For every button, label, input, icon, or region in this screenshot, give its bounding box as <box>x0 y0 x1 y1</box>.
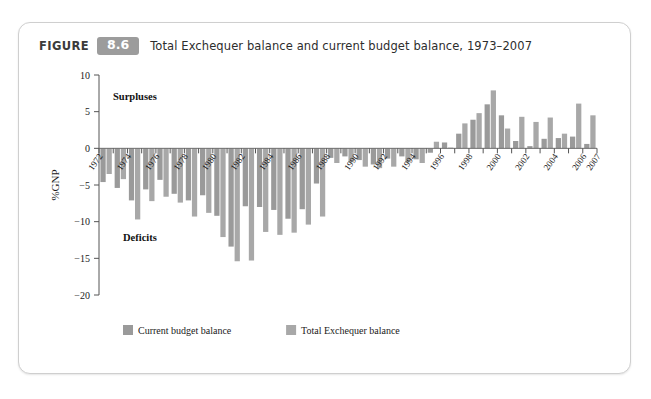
bar-series-group <box>100 90 595 261</box>
bar <box>342 148 347 156</box>
bar <box>485 104 490 148</box>
chart-plot-area: 1050−5−10−15−20 197219741976197819801982… <box>41 67 609 359</box>
bar <box>257 148 262 207</box>
bar <box>570 137 575 149</box>
bar <box>505 129 510 149</box>
bar <box>306 148 311 224</box>
bar <box>556 138 561 148</box>
bar <box>499 115 504 148</box>
bar <box>428 148 433 152</box>
x-tick-label: 2004 <box>541 151 560 172</box>
legend-label: Total Exchequer balance <box>301 325 400 336</box>
bar <box>456 134 461 149</box>
figure-header: FIGURE 8.6 Total Exchequer balance and c… <box>19 33 630 59</box>
y-axis <box>94 75 99 295</box>
bar <box>420 148 425 163</box>
y-tick-label: 5 <box>85 106 90 117</box>
bar <box>562 134 567 149</box>
bar <box>533 122 538 148</box>
x-tick-label: 2002 <box>513 152 532 172</box>
bar <box>548 118 553 149</box>
bar <box>442 142 447 148</box>
legend-swatch <box>123 325 133 335</box>
bar <box>542 139 547 149</box>
bar <box>277 148 282 235</box>
x-tick-label: 2007 <box>584 151 603 172</box>
bar <box>157 148 162 180</box>
deficits-annotation: Deficits <box>123 232 157 243</box>
bar <box>513 141 518 148</box>
bar <box>200 148 205 195</box>
y-axis-title-text: %GNP <box>49 169 61 200</box>
y-tick-label: 10 <box>80 70 90 81</box>
bar <box>491 90 496 148</box>
figure-number-badge: 8.6 <box>97 37 139 55</box>
bar <box>590 115 595 148</box>
y-tick-labels: 1050−5−10−15−20 <box>74 70 90 301</box>
bar <box>584 144 589 148</box>
bar <box>399 148 404 156</box>
bar <box>135 148 140 219</box>
x-tick-label: 1998 <box>456 151 475 172</box>
y-axis-title: %GNP <box>49 169 61 200</box>
y-tick-label: 0 <box>85 143 90 154</box>
y-tick-label: −5 <box>79 180 90 191</box>
chart-legend: Current budget balanceTotal Exchequer ba… <box>123 325 400 336</box>
y-tick-label: −15 <box>74 253 90 264</box>
bar <box>519 117 524 149</box>
bar-chart-svg: 1050−5−10−15−20 197219741976197819801982… <box>41 67 609 359</box>
bar <box>476 113 481 148</box>
x-tick-label: 2000 <box>485 151 504 172</box>
figure-label: FIGURE <box>39 39 89 53</box>
figure-card: FIGURE 8.6 Total Exchequer balance and c… <box>18 22 631 374</box>
bar <box>462 123 467 148</box>
legend-label: Current budget balance <box>138 325 232 336</box>
bar <box>470 120 475 149</box>
bar <box>192 148 197 216</box>
bar <box>391 148 396 166</box>
legend-swatch <box>286 325 296 335</box>
bar <box>334 148 339 163</box>
bar <box>249 148 254 260</box>
bar <box>363 148 368 166</box>
bar <box>220 148 225 237</box>
bar <box>107 148 112 174</box>
bar <box>100 148 105 182</box>
bar <box>576 104 581 149</box>
y-tick-label: −20 <box>74 290 90 301</box>
figure-title: Total Exchequer balance and current budg… <box>150 39 532 53</box>
surpluses-annotation: Surpluses <box>113 91 157 102</box>
x-tick-label: 1996 <box>428 151 447 172</box>
bar <box>163 148 168 196</box>
bar <box>434 142 439 149</box>
x-tick-label: 2006 <box>570 151 589 172</box>
y-tick-label: −10 <box>74 216 90 227</box>
bar <box>172 148 177 193</box>
